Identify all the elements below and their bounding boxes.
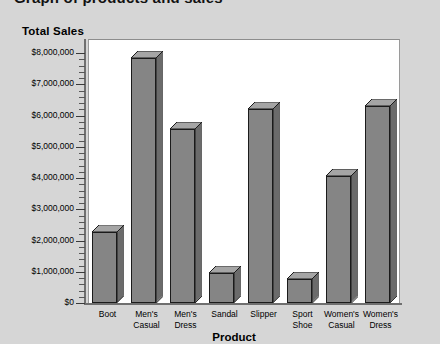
bar	[287, 272, 319, 303]
y-axis-labels: $8,000,000$7,000,000$6,000,000$5,000,000…	[4, 9, 74, 344]
bar-edge-outline	[170, 122, 202, 303]
y-axis-tick-label: $7,000,000	[6, 78, 74, 88]
y-axis-major-tick	[76, 272, 85, 273]
y-axis-minor-tick	[79, 297, 85, 298]
clipped-window-title-text: Graph of products and sales	[14, 0, 223, 6]
y-axis-minor-tick	[79, 78, 85, 79]
y-axis-minor-tick	[79, 72, 85, 73]
y-axis-minor-tick	[79, 141, 85, 142]
y-axis-minor-tick	[79, 153, 85, 154]
y-axis-minor-tick	[79, 284, 85, 285]
y-axis-minor-tick	[79, 59, 85, 60]
x-axis-tick-label: Women's Dress	[357, 309, 404, 330]
bar	[326, 169, 358, 304]
bar	[209, 266, 241, 303]
y-axis-minor-tick	[79, 278, 85, 279]
y-axis-minor-tick	[79, 253, 85, 254]
bar	[248, 102, 280, 303]
y-axis-minor-tick	[79, 197, 85, 198]
bar-edge-outline	[287, 272, 319, 303]
y-axis-minor-tick	[79, 222, 85, 223]
x-axis-title: Product	[14, 331, 440, 343]
y-axis-minor-tick	[79, 184, 85, 185]
y-axis-minor-tick	[79, 172, 85, 173]
bar	[170, 122, 202, 303]
y-axis-minor-tick	[79, 134, 85, 135]
y-axis-tick-label: $8,000,000	[6, 47, 74, 57]
bar-edge-outline	[326, 169, 358, 304]
y-axis-tick-label: $6,000,000	[6, 110, 74, 120]
y-axis-minor-tick	[79, 128, 85, 129]
y-axis-tick-label: $4,000,000	[6, 172, 74, 182]
y-axis-minor-tick	[79, 91, 85, 92]
bar-edge-outline	[131, 51, 163, 303]
y-axis-minor-tick	[79, 216, 85, 217]
y-axis-tick-label: $5,000,000	[6, 141, 74, 151]
bar-edge-outline	[248, 102, 280, 303]
y-axis-major-tick	[76, 147, 85, 148]
y-axis-tick-label: $1,000,000	[6, 266, 74, 276]
y-axis-tick-label: $3,000,000	[6, 203, 74, 213]
y-axis-tick-label: $2,000,000	[6, 235, 74, 245]
bar-edge-outline	[92, 225, 124, 303]
y-axis-minor-tick	[79, 166, 85, 167]
bar	[131, 51, 163, 303]
y-axis-minor-tick	[79, 97, 85, 98]
y-axis-major-tick	[76, 53, 85, 54]
y-axis-major-tick	[76, 303, 85, 304]
y-axis-major-tick	[76, 178, 85, 179]
bar-edge-outline	[209, 266, 241, 303]
y-axis-minor-tick	[79, 159, 85, 160]
x-axis-line	[84, 303, 402, 305]
y-axis-minor-tick	[79, 103, 85, 104]
y-axis-major-tick	[76, 84, 85, 85]
y-axis-major-tick	[76, 241, 85, 242]
y-axis-minor-tick	[79, 234, 85, 235]
bar-edge-outline	[365, 99, 397, 303]
bar	[92, 225, 124, 303]
y-axis-minor-tick	[79, 122, 85, 123]
clipped-window-title: Graph of products and sales	[0, 0, 440, 9]
y-axis-major-tick	[76, 116, 85, 117]
y-axis-minor-tick	[79, 266, 85, 267]
y-axis-minor-tick	[79, 247, 85, 248]
chart-panel: Total Sales $8,000,000$7,000,000$6,000,0…	[0, 9, 440, 344]
y-axis-minor-tick	[79, 66, 85, 67]
y-axis-tick-label: $0	[6, 297, 74, 307]
y-axis-minor-tick	[79, 291, 85, 292]
y-axis-minor-tick	[79, 228, 85, 229]
y-axis-minor-tick	[79, 259, 85, 260]
y-axis-minor-tick	[79, 191, 85, 192]
bar	[365, 99, 397, 303]
y-axis-major-tick	[76, 209, 85, 210]
y-axis-minor-tick	[79, 109, 85, 110]
y-axis-minor-tick	[79, 203, 85, 204]
